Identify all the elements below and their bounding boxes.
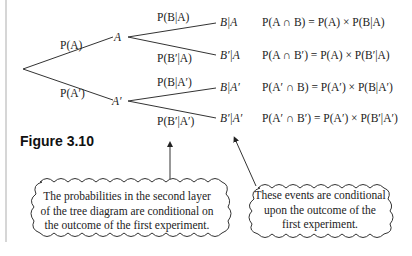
left-callout-line: The probabilities in the second layer (34, 189, 220, 204)
outcome-4: B′|A′ (220, 112, 243, 125)
label-bprime-given-a: P(B′|A) (157, 52, 192, 65)
right-callout-line: These events are conditional (250, 188, 390, 203)
left-callout-line: of the tree diagram are conditional on (34, 204, 220, 219)
outcome-1: B|A (220, 16, 238, 29)
label-bprime-given-aprime: P(B′|A′) (157, 115, 195, 128)
outcome-3: B|A′ (220, 81, 240, 94)
right-callout-line: upon the outcome of the (250, 203, 390, 218)
branch-b-given-a (128, 23, 216, 37)
arrow-right-callout (235, 139, 256, 186)
outcome-2: B′|A (220, 49, 241, 62)
node-a: A (113, 31, 122, 43)
label-p-a: P(A) (60, 39, 83, 52)
figure-label: Figure 3.10 (20, 133, 94, 149)
node-a-prime: A′ (111, 95, 122, 107)
formula-2: P(A ∩ B′) = P(A) × P(B′|A) (262, 49, 390, 62)
branch-b-given-aprime (128, 88, 216, 101)
formula-1: P(A ∩ B) = P(A) × P(B|A) (262, 16, 385, 29)
label-b-given-aprime: P(B|A′) (157, 76, 192, 89)
left-callout-line: the outcome of the first experiment. (34, 218, 220, 233)
label-p-a-prime: P(A′) (60, 87, 85, 100)
label-b-given-a: P(B|A) (157, 11, 190, 24)
formula-3: P(A′ ∩ B) = P(A′) × P(B|A′) (262, 81, 393, 94)
formula-4: P(A′ ∩ B′) = P(A′) × P(B′|A′) (262, 112, 398, 125)
right-callout-text: These events are conditional upon the ou… (250, 188, 390, 232)
left-callout-text: The probabilities in the second layer of… (34, 189, 220, 233)
right-callout-line: first experiment. (250, 217, 390, 232)
